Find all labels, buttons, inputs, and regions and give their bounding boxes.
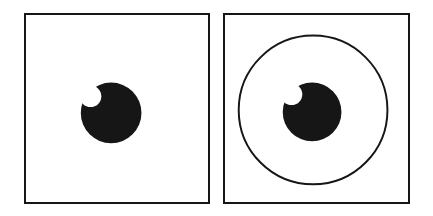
panel-right (223, 13, 410, 204)
panel-right-canvas (225, 15, 408, 202)
bitten-disk-left (81, 83, 142, 144)
panel-left-canvas (26, 15, 208, 202)
bitten-disk-right (283, 83, 342, 142)
figure-root (0, 0, 433, 216)
panel-left (24, 13, 210, 204)
